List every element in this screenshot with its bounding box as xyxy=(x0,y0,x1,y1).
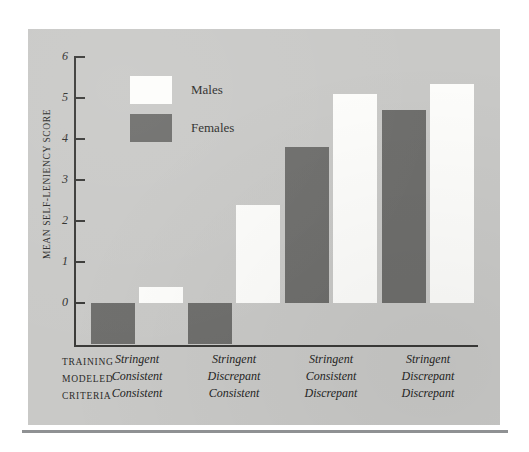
x-group-4-criteria: Discrepant xyxy=(366,385,490,402)
x-axis-line xyxy=(74,345,478,347)
y-tick-mark-2 xyxy=(76,220,85,222)
bar-males-group-2 xyxy=(236,205,280,303)
plot-area: MEAN SELF-LENIENCY SCORE 6543210 Males F… xyxy=(28,29,500,425)
y-tick-mark-0 xyxy=(76,302,85,304)
legend-label-females: Females xyxy=(191,120,234,136)
figure-panel: MEAN SELF-LENIENCY SCORE 6543210 Males F… xyxy=(28,29,500,425)
y-tick-mark-4 xyxy=(76,138,85,140)
y-tick-mark-3 xyxy=(76,179,85,181)
bar-females-group-3 xyxy=(285,147,329,303)
y-tick-label-1: 1 xyxy=(42,255,68,267)
bar-males-group-3 xyxy=(333,94,377,303)
x-axis-category-labels: TRAINING MODELED CRITERIA StringentConsi… xyxy=(28,351,500,417)
y-tick-label-3: 3 xyxy=(42,173,68,185)
legend-item-males: Males xyxy=(130,76,234,104)
legend-label-males: Males xyxy=(191,82,223,98)
legend-swatch-females-icon xyxy=(130,114,172,142)
y-tick-label-0: 0 xyxy=(42,296,68,308)
x-group-label-4: StringentDiscrepantDiscrepant xyxy=(366,351,490,402)
bar-males-group-1 xyxy=(139,287,183,303)
chart-legend: Males Females xyxy=(130,76,234,152)
y-tick-mark-6 xyxy=(76,56,85,58)
x-group-4-training: Stringent xyxy=(366,351,490,368)
y-tick-label-6: 6 xyxy=(42,50,68,62)
legend-item-females: Females xyxy=(130,114,234,142)
bar-females-group-4 xyxy=(382,110,426,303)
y-tick-label-5: 5 xyxy=(42,91,68,103)
bar-males-group-4 xyxy=(430,84,474,303)
y-tick-label-4: 4 xyxy=(42,132,68,144)
y-tick-label-2: 2 xyxy=(42,214,68,226)
y-tick-mark-1 xyxy=(76,261,85,263)
bar-females-group-2 xyxy=(188,303,232,344)
x-group-4-modeled: Discrepant xyxy=(366,368,490,385)
bottom-rule xyxy=(22,430,508,433)
y-tick-mark-5 xyxy=(76,97,85,99)
bar-females-group-1 xyxy=(91,303,135,344)
legend-swatch-males-icon xyxy=(130,76,172,104)
